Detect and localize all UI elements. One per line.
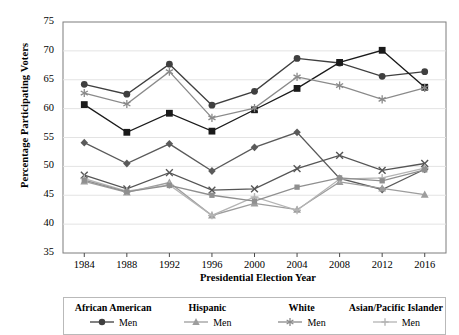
legend-plus-icon (372, 316, 398, 328)
plot-area: Percentage Participating Voters Presiden… (0, 0, 459, 290)
legend-entry-label: Men (307, 317, 325, 328)
legend-circle-icon (89, 316, 115, 328)
legend-entry[interactable]: Men (66, 316, 160, 328)
legend-entry-label: Men (119, 317, 137, 328)
x-axis-tick: 2000 (235, 259, 275, 270)
legend-asterisk-icon (277, 316, 303, 328)
legend-entry[interactable]: Men (160, 316, 254, 328)
chart-legend: African AmericanMenHispanicMenWhiteMenAs… (63, 297, 446, 335)
legend-entry-label: Men (213, 317, 231, 328)
y-axis-tick: 35 (28, 247, 54, 257)
legend-entry-label: Men (402, 317, 420, 328)
legend-column-3: Asian/Pacific IslanderMen (349, 302, 443, 328)
y-axis-tick: 70 (28, 45, 54, 55)
legend-triangle-icon (183, 316, 209, 328)
x-axis-tick: 2016 (405, 259, 445, 270)
y-axis-tick: 55 (28, 132, 54, 142)
legend-column-2: WhiteMen (255, 302, 349, 328)
y-axis-tick: 45 (28, 189, 54, 199)
y-axis-tick: 40 (28, 218, 54, 228)
legend-entry[interactable]: Men (349, 316, 443, 328)
x-axis-tick: 1996 (192, 259, 232, 270)
x-axis-tick: 1988 (107, 259, 147, 270)
legend-group-header: Hispanic (160, 302, 254, 313)
x-axis-tick: 1992 (149, 259, 189, 270)
x-axis-tick: 2012 (362, 259, 402, 270)
legend-column-1: HispanicMen (160, 302, 254, 328)
x-axis-tick: 2008 (320, 259, 360, 270)
y-axis-tick: 65 (28, 74, 54, 84)
legend-entry[interactable]: Men (255, 316, 349, 328)
legend-column-0: African AmericanMen (66, 302, 160, 328)
chart-svg (0, 0, 459, 290)
legend-group-header: African American (66, 302, 160, 313)
x-axis-tick: 2004 (277, 259, 317, 270)
legend-group-header: White (255, 302, 349, 313)
y-axis-tick: 50 (28, 160, 54, 170)
y-axis-tick: 75 (28, 16, 54, 26)
x-axis-tick: 1984 (64, 259, 104, 270)
y-axis-tick: 60 (28, 103, 54, 113)
chart-figure: Percentage Participating Voters Presiden… (0, 0, 459, 335)
legend-group-header: Asian/Pacific Islander (349, 302, 443, 313)
